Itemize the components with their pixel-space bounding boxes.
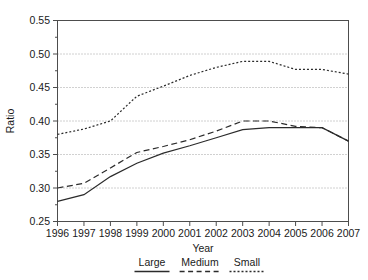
y-axis-title: Ratio <box>4 109 16 134</box>
legend-label-small: Small <box>234 256 260 268</box>
legend-label-large: Large <box>139 256 166 268</box>
x-tick-label: 1997 <box>72 227 96 239</box>
x-tick-label: 2002 <box>205 227 229 239</box>
chart-container: 0.250.300.350.400.450.500.55199619971998… <box>0 0 368 280</box>
y-tick-label: 0.50 <box>30 48 51 60</box>
x-tick-label: 2007 <box>337 227 361 239</box>
x-tick-label: 2006 <box>310 227 334 239</box>
series-line-large <box>58 128 349 202</box>
x-tick-label: 2000 <box>152 227 176 239</box>
line-chart: 0.250.300.350.400.450.500.55199619971998… <box>0 0 368 280</box>
y-tick-label: 0.55 <box>30 14 51 26</box>
legend-label-medium: Medium <box>181 256 219 268</box>
series-line-medium <box>58 121 349 188</box>
y-tick-label: 0.35 <box>30 148 51 160</box>
x-tick-label: 1996 <box>46 227 70 239</box>
y-tick-label: 0.25 <box>30 215 51 227</box>
series-line-small <box>58 61 349 134</box>
x-tick-label: 1999 <box>125 227 149 239</box>
x-tick-label: 2005 <box>284 227 308 239</box>
x-tick-label: 2004 <box>257 227 281 239</box>
y-tick-label: 0.45 <box>30 81 51 93</box>
x-tick-label: 2003 <box>231 227 255 239</box>
y-tick-label: 0.30 <box>30 182 51 194</box>
x-tick-label: 2001 <box>178 227 202 239</box>
plot-frame <box>58 21 349 222</box>
x-tick-label: 1998 <box>99 227 123 239</box>
x-axis-title: Year <box>192 242 214 254</box>
y-tick-label: 0.40 <box>30 115 51 127</box>
